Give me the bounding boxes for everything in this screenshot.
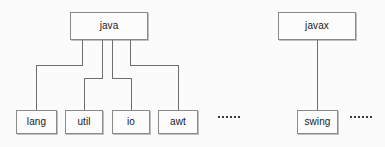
node-javax[interactable]: javax: [278, 12, 356, 40]
ellipsis-icon-javax-more: [350, 116, 372, 118]
node-util[interactable]: util: [65, 110, 103, 134]
edge-java-to-util: [84, 40, 102, 110]
node-awt[interactable]: awt: [158, 110, 198, 134]
edge-java-to-lang: [37, 40, 83, 110]
node-io[interactable]: io: [112, 110, 150, 134]
node-swing-label: swing: [304, 117, 330, 127]
node-io-label: io: [127, 117, 135, 127]
node-javax-label: javax: [305, 21, 329, 31]
ellipsis-icon-java-more: [218, 116, 240, 118]
node-lang-label: lang: [27, 117, 46, 127]
edge-java-to-io: [112, 40, 131, 110]
node-swing[interactable]: swing: [297, 110, 338, 134]
node-java-label: java: [100, 21, 119, 31]
node-lang[interactable]: lang: [16, 110, 57, 134]
node-awt-label: awt: [170, 117, 186, 127]
node-java[interactable]: java: [70, 12, 148, 40]
node-util-label: util: [77, 117, 90, 127]
package-hierarchy-diagram: java lang util io awt javax swing: [0, 0, 385, 147]
edge-java-to-awt: [130, 40, 178, 110]
